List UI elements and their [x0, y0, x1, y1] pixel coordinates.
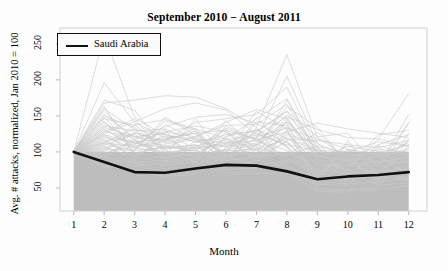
chart-figure: September 2010 − August 2011 Avg. # atta… [0, 0, 448, 271]
legend-label-saudi-arabia: Saudi Arabia [94, 38, 149, 49]
legend-line-swatch [66, 45, 88, 47]
legend: Saudi Arabia [57, 33, 161, 56]
